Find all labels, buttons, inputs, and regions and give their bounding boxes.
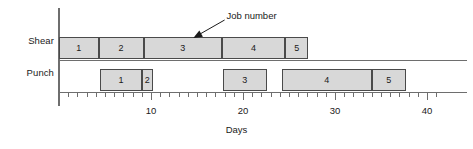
shear-baseline: [58, 60, 467, 61]
x-axis-tick-major: [427, 93, 428, 100]
x-axis-tick-minor: [215, 93, 216, 97]
x-axis-tick-major: [151, 93, 152, 100]
x-axis-tick-minor: [169, 93, 170, 97]
gantt-bar-label: 5: [386, 76, 391, 85]
gantt-bar: 4: [222, 37, 285, 59]
x-axis-tick-minor: [142, 93, 143, 97]
gantt-bar: 5: [372, 69, 406, 91]
gantt-bar-label: 3: [180, 44, 185, 53]
x-axis-tick-minor: [326, 93, 327, 97]
gantt-bar: 5: [285, 37, 308, 59]
x-axis-tick-minor: [409, 93, 410, 97]
x-axis-tick-minor: [133, 93, 134, 97]
x-axis-tick-minor: [344, 93, 345, 97]
annotation-label: Job number: [226, 10, 276, 21]
x-axis-tick-minor: [390, 93, 391, 97]
gantt-bar: 1: [100, 69, 141, 91]
gantt-bar: 2: [142, 69, 153, 91]
x-axis-tick-minor: [188, 93, 189, 97]
x-axis-tick-minor: [317, 93, 318, 97]
x-axis-tick-minor: [105, 93, 106, 97]
x-axis-tick-major: [335, 93, 336, 100]
gantt-bar-label: 4: [324, 76, 329, 85]
x-axis-tick-minor: [261, 93, 262, 97]
x-axis-tick-minor: [77, 93, 78, 97]
x-axis-tick-minor: [418, 93, 419, 97]
x-axis-tick-minor: [307, 93, 308, 97]
gantt-bar: 4: [282, 69, 372, 91]
gantt-bar-label: 5: [294, 44, 299, 53]
gantt-bar: 3: [144, 37, 222, 59]
x-axis-tick-minor: [298, 93, 299, 97]
x-axis-tick-minor: [399, 93, 400, 97]
x-axis-tick-minor: [197, 93, 198, 97]
x-axis-tick-minor: [381, 93, 382, 97]
gantt-bar: 3: [223, 69, 267, 91]
x-axis-tick-minor: [160, 93, 161, 97]
x-axis-tick-minor: [271, 93, 272, 97]
gantt-bar-label: 2: [119, 44, 124, 53]
gantt-bar-label: 2: [145, 76, 150, 85]
x-axis-tick-minor: [179, 93, 180, 97]
gantt-chart: Shear Punch 1234512345 10203040 Job numb…: [0, 0, 473, 149]
x-axis-tick-minor: [114, 93, 115, 97]
x-axis-title: Days: [0, 124, 473, 135]
x-axis-line: [58, 92, 467, 93]
gantt-bar: 2: [99, 37, 144, 59]
x-axis-tick-minor: [363, 93, 364, 97]
gantt-bar-label: 3: [242, 76, 247, 85]
x-axis-tick-minor: [289, 93, 290, 97]
x-axis-tick-minor: [372, 93, 373, 97]
gantt-bar-label: 1: [119, 76, 124, 85]
x-axis-tick-minor: [436, 93, 437, 97]
gantt-bar-label: 1: [76, 44, 81, 53]
x-axis-tick-minor: [87, 93, 88, 97]
x-axis-tick-minor: [206, 93, 207, 97]
gantt-bar-label: 4: [251, 44, 256, 53]
x-axis-tick-minor: [234, 93, 235, 97]
x-axis-tick-label: 20: [223, 105, 263, 116]
x-axis-tick-minor: [123, 93, 124, 97]
x-axis-tick-major: [243, 93, 244, 100]
x-axis-tick-minor: [96, 93, 97, 97]
row-label-shear: Shear: [0, 35, 54, 46]
x-axis-tick-minor: [252, 93, 253, 97]
x-axis-tick-minor: [225, 93, 226, 97]
x-axis-tick-label: 10: [131, 105, 171, 116]
x-axis-tick-minor: [68, 93, 69, 97]
x-axis-tick-label: 40: [407, 105, 447, 116]
gantt-bar: 1: [59, 37, 99, 59]
x-axis-tick-minor: [353, 93, 354, 97]
x-axis-tick-label: 30: [315, 105, 355, 116]
row-label-punch: Punch: [0, 67, 54, 78]
x-axis-tick-minor: [280, 93, 281, 97]
